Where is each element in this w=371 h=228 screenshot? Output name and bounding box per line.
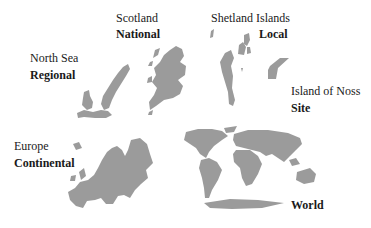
regional-scale-label: Regional [30,68,75,82]
world-map [184,126,316,209]
north-sea-label: North Sea [30,51,78,65]
world-scale-label: World [291,198,324,212]
europe-label: Europe [14,139,49,153]
shetland-label: Shetland Islands [211,11,290,25]
noss-map [268,58,289,79]
shetland-map [210,29,251,106]
noss-label: Island of Noss [291,84,360,98]
local-scale-label: Local [259,27,288,41]
site-scale-label: Site [291,101,310,115]
scotland-label: Scotland [116,11,158,25]
continental-scale-label: Continental [14,156,75,170]
europe-map [68,138,153,208]
national-scale-label: National [116,27,160,41]
scotland-map [147,46,186,115]
north-sea-map [77,64,130,118]
scale-maps [0,0,371,228]
